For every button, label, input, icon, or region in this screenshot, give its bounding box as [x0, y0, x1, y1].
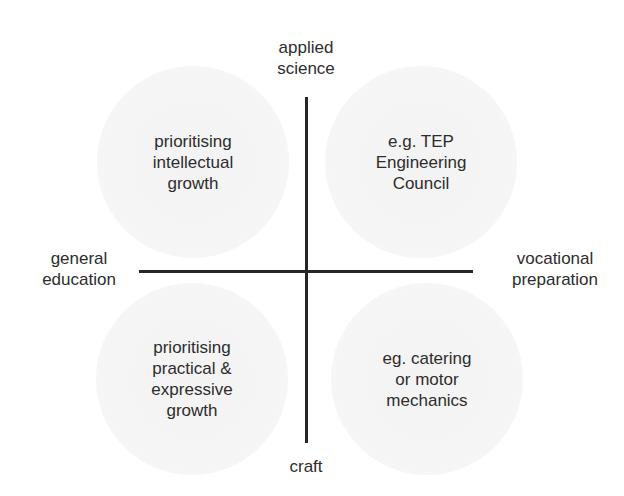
- quadrant-bottom-left: prioritising practical & expressive grow…: [96, 283, 288, 475]
- axis-label-left: general education: [24, 248, 134, 290]
- quadrant-bottom-left-label: prioritising practical & expressive grow…: [151, 337, 232, 421]
- quadrant-top-left-label: prioritising intellectual growth: [153, 131, 233, 194]
- axis-label-right: vocational preparation: [490, 248, 620, 290]
- quadrant-bottom-right: eg. catering or motor mechanics: [331, 283, 523, 475]
- horizontal-axis-line: [139, 270, 473, 273]
- axis-label-top: applied science: [256, 37, 356, 79]
- quadrant-top-right-label: e.g. TEP Engineering Council: [376, 131, 467, 194]
- quadrant-top-left: prioritising intellectual growth: [97, 66, 289, 258]
- quadrant-top-right: e.g. TEP Engineering Council: [325, 66, 517, 258]
- quadrant-bottom-right-label: eg. catering or motor mechanics: [383, 348, 472, 411]
- axis-label-bottom: craft: [256, 456, 356, 477]
